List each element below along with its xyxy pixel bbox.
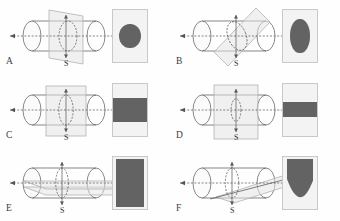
plane-label-d: S [234, 133, 238, 142]
result-shape-e [116, 159, 143, 207]
result-shape-c [113, 98, 147, 122]
panel-b: LSB [170, 0, 340, 74]
panel-letter-d: D [176, 130, 183, 140]
figure-root: LSALSBLSCLSDLSELSF [0, 0, 340, 221]
plane-label-b: S [234, 59, 238, 68]
plane-label-e: S [60, 206, 64, 215]
panel-c: LSC [0, 74, 170, 148]
result-box-c [112, 83, 148, 137]
plane-label-f: S [230, 206, 234, 215]
plane-label-c: S [64, 133, 68, 142]
panel-f: LSF [170, 147, 340, 221]
result-shape-b [290, 19, 309, 52]
panel-e: LSE [0, 147, 170, 221]
result-box-f [282, 156, 318, 210]
panel-a: LSA [0, 0, 170, 74]
result-box-d [282, 83, 318, 137]
panel-letter-b: B [176, 56, 183, 66]
plane-label-a: S [64, 59, 68, 68]
panel-d: LSD [170, 74, 340, 148]
panel-letter-e: E [6, 203, 12, 213]
result-box-e [112, 156, 148, 210]
panel-letter-c: C [6, 130, 13, 140]
result-shape-f [287, 159, 314, 207]
result-box-a [112, 9, 148, 63]
panel-letter-f: F [176, 203, 182, 213]
result-shape-d [283, 102, 317, 117]
result-shape-a [119, 24, 140, 48]
panel-letter-a: A [6, 56, 13, 66]
result-box-b [282, 9, 318, 63]
